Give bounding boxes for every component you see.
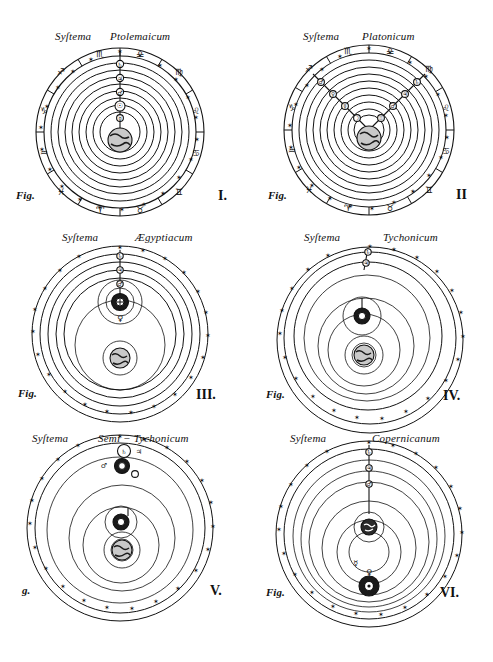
figure-2-fig-label: Fig.: [267, 189, 287, 201]
svg-text:☿: ☿: [343, 103, 346, 109]
figure-2-numeral: II: [456, 187, 467, 202]
svg-text:✶: ✶: [55, 84, 61, 92]
svg-text:✶: ✶: [460, 333, 466, 341]
svg-text:☉: ☉: [117, 102, 123, 110]
svg-text:✶: ✶: [305, 266, 311, 274]
svg-text:✶: ✶: [309, 182, 315, 190]
svg-text:✶: ✶: [195, 288, 201, 296]
svg-text:☽: ☽: [355, 115, 360, 121]
svg-text:✶: ✶: [276, 526, 282, 534]
svg-text:✶: ✶: [391, 199, 397, 207]
svg-text:✶: ✶: [176, 174, 182, 182]
plate-canvas: Syſtema Ptolemaicum: [0, 0, 493, 662]
svg-text:♀: ♀: [366, 568, 372, 577]
figure-6-numeral: VI.: [440, 585, 459, 600]
svg-text:✶: ✶: [162, 255, 168, 263]
svg-text:✶: ✶: [42, 285, 48, 293]
figure-5-fig-label: g.: [21, 584, 30, 596]
svg-text:✶: ✶: [423, 73, 429, 81]
svg-text:✶: ✶: [70, 68, 76, 76]
svg-text:✶: ✶: [304, 82, 310, 90]
svg-text:✶: ✶: [403, 408, 409, 416]
svg-text:✶: ✶: [325, 252, 331, 260]
svg-text:✶: ✶: [208, 499, 214, 507]
figure-4-title-right: Tychonicum: [383, 231, 438, 243]
svg-text:✶: ✶: [278, 503, 284, 511]
svg-text:✶: ✶: [62, 388, 68, 396]
svg-text:✶: ✶: [458, 309, 464, 317]
svg-text:✶: ✶: [104, 408, 110, 416]
svg-text:♐: ♐: [305, 64, 313, 74]
svg-text:♊: ♊: [175, 187, 183, 197]
svg-text:✶: ✶: [210, 523, 216, 531]
svg-text:♄: ♄: [367, 449, 372, 455]
svg-text:✶: ✶: [433, 464, 439, 472]
figure-2-title-left: Syſtema: [303, 30, 340, 42]
svg-text:♄: ♄: [117, 61, 122, 68]
svg-text:✶: ✶: [379, 415, 385, 423]
svg-text:✶: ✶: [59, 183, 65, 191]
svg-text:✶: ✶: [426, 172, 432, 180]
svg-text:✶: ✶: [200, 354, 206, 362]
svg-text:✶: ✶: [57, 267, 63, 275]
svg-text:✶: ✶: [32, 544, 38, 552]
svg-text:✶: ✶: [378, 611, 384, 619]
svg-text:✶: ✶: [296, 164, 302, 172]
svg-text:✶: ✶: [281, 550, 287, 558]
svg-text:✶: ✶: [29, 497, 35, 505]
svg-text:✶: ✶: [205, 546, 211, 554]
svg-text:✶: ✶: [402, 604, 408, 612]
svg-text:✶: ✶: [60, 583, 66, 591]
figure-2-title-right: Platonicum: [361, 30, 415, 42]
figure-3-numeral: III.: [196, 387, 216, 402]
svg-text:✶: ✶: [279, 307, 285, 315]
svg-text:✶: ✶: [181, 269, 187, 277]
svg-text:✶: ✶: [137, 52, 143, 60]
svg-text:✶: ✶: [287, 122, 293, 130]
svg-text:♂: ♂: [118, 281, 123, 287]
figure-6-earth-with-moon: [361, 519, 377, 535]
svg-text:♃: ♃: [117, 75, 122, 82]
figure-4-title-left: Syſtema: [304, 231, 341, 243]
svg-text:✶: ✶: [141, 436, 147, 444]
svg-text:✶: ✶: [353, 610, 359, 618]
svg-text:♏: ♏: [96, 49, 104, 59]
svg-text:✶: ✶: [194, 136, 200, 144]
svg-text:✶: ✶: [193, 567, 199, 575]
svg-text:✶: ✶: [188, 156, 194, 164]
figure-5-earth: [112, 540, 132, 560]
svg-text:♏: ♏: [344, 46, 352, 56]
svg-text:✶: ✶: [164, 444, 170, 452]
svg-text:✶: ✶: [293, 101, 299, 109]
svg-text:✶: ✶: [354, 414, 360, 422]
svg-text:♂: ♂: [117, 89, 122, 96]
svg-text:✶: ✶: [443, 377, 449, 385]
figure-1-title-right: Ptolemaicum: [109, 30, 170, 42]
svg-text:✶: ✶: [119, 206, 125, 214]
svg-text:✶: ✶: [30, 328, 36, 336]
svg-text:✶: ✶: [309, 589, 315, 597]
svg-text:♄: ♄: [121, 448, 126, 455]
svg-text:✶: ✶: [141, 201, 147, 209]
svg-text:♐: ♐: [57, 67, 65, 77]
figure-1-numeral: I.: [218, 188, 227, 203]
figure-1-earth: [108, 128, 132, 152]
svg-text:✶: ✶: [157, 62, 163, 70]
svg-text:✶: ✶: [387, 49, 393, 57]
figure-3-title-right: Ægyptiacum: [134, 231, 193, 243]
svg-text:✶: ✶: [277, 330, 283, 338]
svg-text:✶: ✶: [38, 124, 44, 132]
svg-text:✶: ✶: [443, 112, 449, 120]
figure-6-title-left: Syſtema: [290, 432, 327, 444]
svg-text:♂: ♂: [101, 462, 107, 470]
svg-text:✶: ✶: [75, 442, 81, 450]
svg-text:✶: ✶: [55, 456, 61, 464]
figure-6-sun: [359, 576, 379, 596]
svg-text:✶: ✶: [425, 395, 431, 403]
svg-text:✶: ✶: [330, 603, 336, 611]
svg-text:✶: ✶: [205, 332, 211, 340]
svg-text:✶: ✶: [77, 196, 83, 204]
svg-text:✶: ✶: [193, 114, 199, 122]
svg-text:✶: ✶: [140, 247, 146, 255]
figure-6-fig-label: Fig.: [265, 586, 285, 598]
